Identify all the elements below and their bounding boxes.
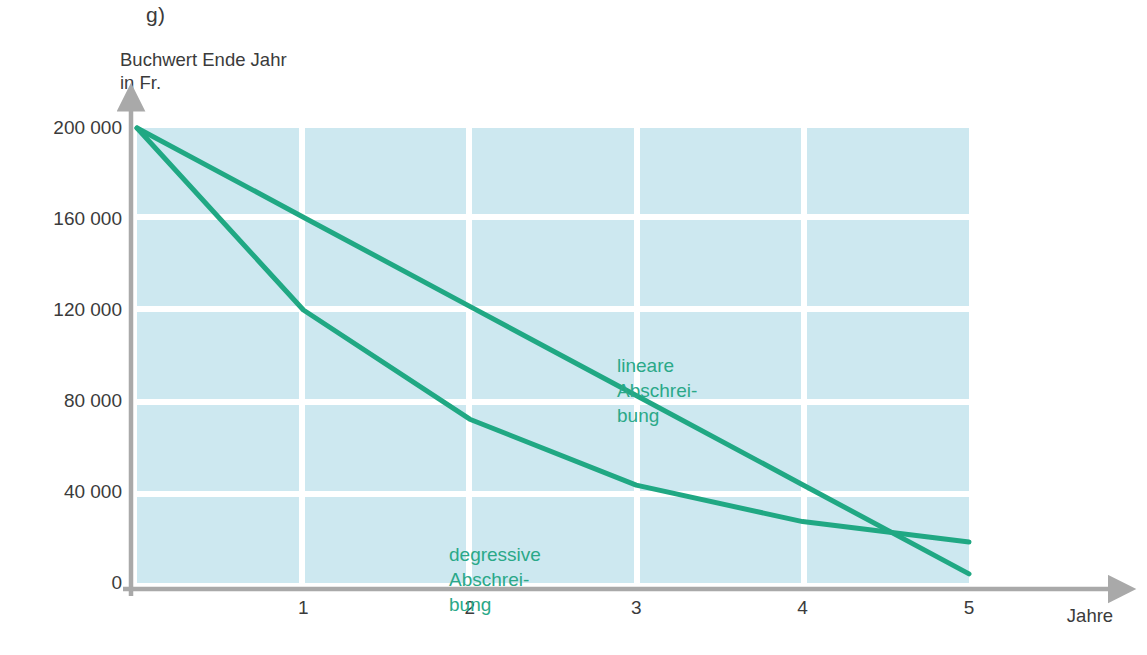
plot-area: lineare Abschrei- bung degressive Abschr… <box>137 128 969 583</box>
y-tick-label: 0 <box>0 572 122 594</box>
series-line-degressive <box>137 128 969 542</box>
panel-letter: g) <box>146 3 165 27</box>
y-tick-label: 80 000 <box>0 390 122 412</box>
annotation-lineare-abschreibung: lineare Abschrei- bung <box>617 353 697 428</box>
series-layer <box>137 128 969 583</box>
series-line-lineare <box>137 128 969 574</box>
x-tick-label: 1 <box>298 597 309 619</box>
annotation-degressive-abschreibung: degressive Abschrei- bung <box>449 542 541 617</box>
x-tick-label: 4 <box>797 597 808 619</box>
y-tick-label: 40 000 <box>0 481 122 503</box>
y-tick-label: 200 000 <box>0 117 122 139</box>
y-tick-label: 160 000 <box>0 208 122 230</box>
y-axis-title: Buchwert Ende Jahr in Fr. <box>120 48 287 94</box>
y-tick-label: 120 000 <box>0 299 122 321</box>
x-tick-label: 3 <box>631 597 642 619</box>
x-axis-title: Jahre <box>1067 605 1113 627</box>
x-tick-label: 5 <box>964 597 975 619</box>
chart-figure: g) Buchwert Ende Jahr in Fr. Jahre 040 0… <box>0 0 1147 655</box>
